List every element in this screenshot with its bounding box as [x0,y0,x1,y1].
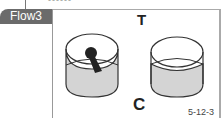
diagram-panel: T C 5-12-3 [52,9,221,118]
cup-with-dark-mass [66,34,118,97]
empty-cup [151,37,203,97]
partial-header-text: ------ [48,0,72,5]
label-c: C [133,95,145,115]
figure-number: 5-12-3 [188,107,214,117]
flow-tab-label: Flow3 [0,9,52,24]
